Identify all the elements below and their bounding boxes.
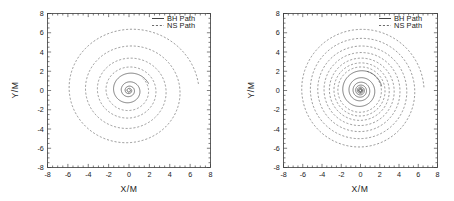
left-panel-plot: -8-6-4-202468-8-6-4-202468 X/M Y/M BH Pa…	[0, 0, 227, 201]
xtick-label: -2	[338, 170, 344, 179]
ytick-label: 4	[276, 48, 280, 57]
ytick-label: 2	[276, 67, 280, 76]
ns-path-curve-left	[69, 29, 198, 142]
xtick-label: 0	[359, 170, 363, 179]
right-plot-frame	[284, 14, 438, 168]
left-tick-labels: -8-6-4-202468-8-6-4-202468	[38, 9, 213, 179]
xtick-label: -8	[45, 170, 51, 179]
xtick-label: 8	[209, 170, 213, 179]
left-panel: -8-6-4-202468-8-6-4-202468 X/M Y/M BH Pa…	[0, 0, 227, 201]
xtick-label: 6	[416, 170, 420, 179]
left-yaxis-title: Y/M	[10, 81, 20, 98]
xtick-label: -2	[106, 170, 112, 179]
ytick-label: -6	[38, 144, 44, 153]
xtick-label: 2	[378, 170, 382, 179]
xtick-label: 0	[127, 170, 131, 179]
xtick-label: -6	[65, 170, 71, 179]
xtick-label: 8	[436, 170, 440, 179]
ytick-label: 0	[40, 86, 44, 95]
bh-path-curve-right	[343, 71, 382, 107]
ytick-label: 8	[276, 9, 280, 18]
ytick-label: 6	[40, 28, 44, 37]
figure-container: -8-6-4-202468-8-6-4-202468 X/M Y/M BH Pa…	[0, 0, 454, 201]
ytick-label: 6	[276, 28, 280, 37]
legend-ns-label: NS Path	[167, 21, 195, 30]
left-axis-ticks	[48, 14, 211, 168]
ytick-label: -8	[38, 163, 44, 172]
bh-path-curve-left	[114, 73, 149, 103]
ytick-label: -2	[38, 105, 44, 114]
left-curves	[69, 29, 198, 142]
ytick-label: -4	[274, 125, 280, 134]
xtick-label: -8	[281, 170, 287, 179]
xtick-label: -4	[319, 170, 325, 179]
ytick-label: -4	[38, 125, 44, 134]
xtick-label: 6	[188, 170, 192, 179]
xtick-label: 2	[147, 170, 151, 179]
left-plot-frame	[48, 14, 211, 168]
ytick-label: 0	[276, 86, 280, 95]
right-axis-ticks	[284, 14, 438, 168]
legend-ns-label: NS Path	[394, 21, 422, 30]
ytick-label: 4	[40, 48, 44, 57]
right-legend: BH Path NS Path	[379, 14, 422, 30]
xtick-label: 4	[397, 170, 401, 179]
xtick-label: -6	[300, 170, 306, 179]
left-legend: BH Path NS Path	[152, 14, 195, 30]
ytick-label: -6	[274, 144, 280, 153]
ytick-label: -8	[274, 163, 280, 172]
right-yaxis-title: Y/M	[246, 81, 256, 98]
xtick-label: -4	[85, 170, 91, 179]
right-curves	[302, 29, 424, 147]
ytick-label: 8	[40, 9, 44, 18]
right-xaxis-title: X/M	[351, 184, 368, 194]
xtick-label: 4	[168, 170, 172, 179]
ytick-label: 2	[40, 67, 44, 76]
left-xaxis-title: X/M	[120, 184, 137, 194]
right-panel-plot: -8-6-4-202468-8-6-4-202468 X/M Y/M BH Pa…	[227, 0, 454, 201]
ns-path-curve-right	[302, 29, 424, 147]
ytick-label: -2	[274, 105, 280, 114]
right-panel: -8-6-4-202468-8-6-4-202468 X/M Y/M BH Pa…	[227, 0, 454, 201]
